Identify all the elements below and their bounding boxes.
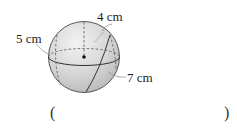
answer-open-paren: (	[50, 104, 55, 122]
sphere	[49, 22, 120, 93]
label-right: 7 cm	[127, 70, 153, 85]
answer-close-paren: )	[224, 104, 229, 122]
center-point	[82, 55, 86, 59]
sphere-diagram: 4 cm 5 cm 7 cm	[0, 0, 237, 135]
label-left: 5 cm	[16, 31, 42, 46]
label-top: 4 cm	[97, 9, 123, 24]
